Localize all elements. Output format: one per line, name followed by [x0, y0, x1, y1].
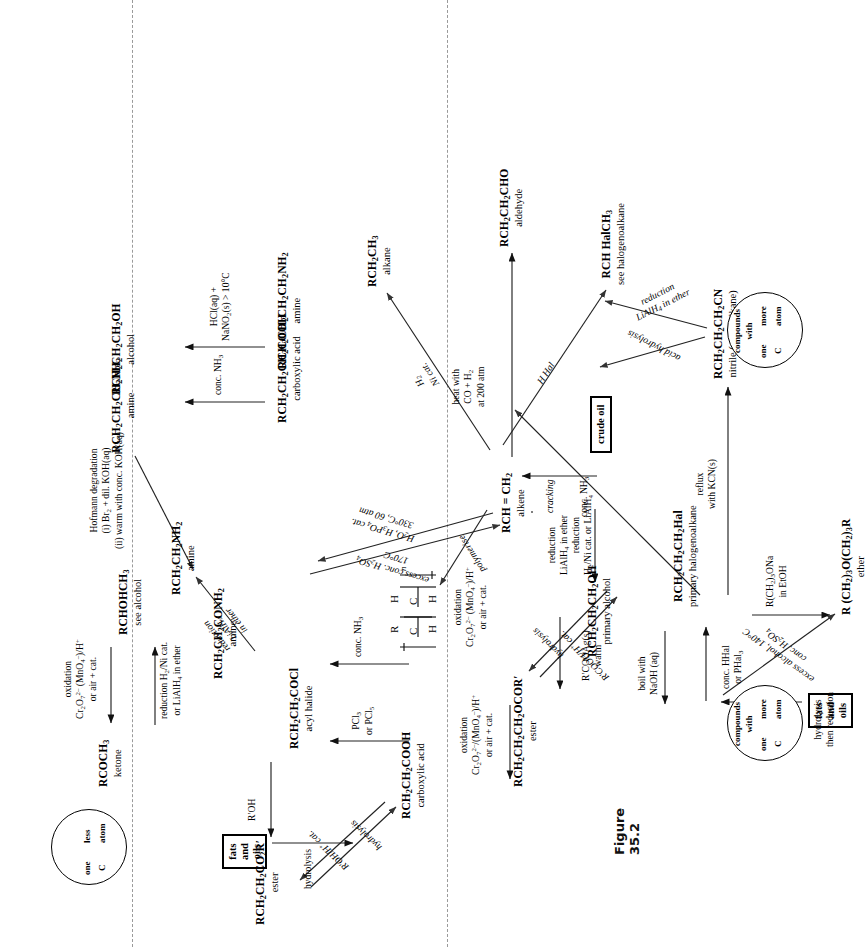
polymer-C2: C — [407, 598, 420, 605]
cond-boil-naoh: boil withNaOH (aq) — [636, 652, 659, 695]
cond-hydrolysis-then-reduction: hydrolysisthen reduction — [812, 692, 835, 747]
cond-hydrolysis-fats: hydrolysis — [302, 849, 314, 889]
node-alkene-label: alkene — [515, 473, 527, 533]
node-amine-plus-one-label: amine — [291, 252, 303, 369]
cond-excess-alcohol: excess alcohol, 140°Cconc. H2SO4 — [741, 616, 824, 686]
polymer-H-br: H — [426, 595, 439, 603]
circle-less-atom: atom — [97, 824, 107, 844]
cond-r-oh: R′OH — [246, 799, 258, 821]
polymer-R: R — [388, 626, 401, 633]
polymer-H-bl: H — [426, 625, 439, 633]
node-ketone: RCOCH3 ketone — [97, 739, 124, 787]
node-sec-halogenoalkane: RCH HalCH3 see halogenoalkane — [600, 203, 627, 285]
cond-r-cooag: R′COOAg(s)warm — [580, 630, 603, 681]
cond-pcl3-pcl5: PCl3or PCl5 — [350, 707, 376, 735]
node-acyl-halide-formula: RCH2CH2COCl — [288, 668, 303, 749]
node-aldehyde: RCH2CH2CHO aldehyde — [498, 169, 525, 247]
node-ether: R (CH2)3O(CH2)3R ether — [840, 519, 867, 615]
node-ether-formula: R (CH2)3O(CH2)3R — [840, 519, 855, 615]
node-alkene-formula: RCH = CH2 — [500, 473, 515, 533]
figure-caption: Figure 35.2 — [612, 808, 642, 855]
circle-mid-line1: compounds — [732, 294, 742, 368]
cond-reflux-kcn: refluxwith KCN(s) — [694, 459, 717, 509]
circle-left-line2: with — [744, 687, 754, 761]
node-secondary-alcohol-formula: RCHOHCH3 — [117, 569, 132, 635]
cond-conc-nh3-amide: conc. NH3 — [352, 617, 365, 657]
cond-oxidation-aldehyde: oxidationCr2O72–/(MnO4–)/H+or air + cat. — [458, 695, 494, 775]
node-amine-plus-one-formula: RCH2CH2CH2CH2NH2 — [276, 252, 291, 369]
cond-hofmann: Hofmann degradation(i) Br2 + dil. KOH(aq… — [88, 432, 124, 549]
node-alcohol-long: RCH2CH2CH2OH alcohol — [110, 303, 137, 395]
cond-conc-hhal: conc. HHalor PHal3 — [720, 645, 745, 689]
cond-cracking: cracking — [544, 479, 556, 513]
node-alcohol-long-formula: RCH2CH2CH2OH — [110, 303, 125, 395]
node-alkane-formula: RCH2CH3 — [366, 235, 381, 287]
node-amine-short: RCH2CH2NH2 amine — [170, 522, 197, 595]
node-carboxylic-acid-label: carboxylic acid — [415, 732, 427, 819]
node-ester-mid-formula: RCH2CH2CH2OCOR′ — [512, 675, 527, 787]
circle-less-c: C — [97, 865, 107, 872]
cond-conc-nh3-amine-long: conc. NH3 — [212, 355, 225, 395]
circle-left-atom: atom — [773, 700, 783, 720]
circle-less-one: one — [82, 862, 92, 876]
node-carboxylic-acid: RCH2CH2COOH carboxylic acid — [400, 732, 427, 819]
cond-conc-nh3-ester-mid: conc. NH3 — [578, 477, 591, 517]
node-amine-plus-one: RCH2CH2CH2CH2NH2 amine — [276, 252, 303, 369]
box-crude-oil: crude oil — [590, 396, 612, 453]
circle-mid-line2: with — [744, 294, 754, 368]
cond-hcl-nano2: HCl(aq) +NaNO2(s) > 10°C — [208, 272, 233, 341]
node-secondary-alcohol-label: see alcohol — [132, 569, 144, 635]
polymer-C1: C — [407, 628, 420, 635]
node-alkene: RCH = CH2 alkene — [500, 473, 527, 533]
node-primary-halogenoalkane: RCH2CH2CH2Hal primary halogenoalkane — [672, 505, 699, 607]
circle-left-one: one — [758, 738, 768, 752]
node-alkane: RCH2CH3 alkane — [366, 235, 393, 287]
node-secondary-alcohol: RCHOHCH3 see alcohol — [117, 569, 144, 635]
node-ester-top: RCH2CH2CO2R′ ester — [254, 840, 281, 925]
circle-less-less: less — [82, 830, 92, 844]
node-ester-mid: RCH2CH2CH2OCOR′ ester — [512, 675, 539, 787]
node-primary-halogenoalkane-label: primary halogenoalkane — [687, 505, 699, 607]
node-amine-short-label: amine — [185, 522, 197, 595]
node-alkane-label: alkane — [381, 235, 393, 287]
polymer-H-tr: H — [388, 595, 401, 603]
node-sec-halogenoalkane-formula: RCH HalCH3 — [600, 203, 615, 285]
node-ester-top-label: ester — [269, 840, 281, 925]
node-sec-halogenoalkane-label: see halogenoalkane — [615, 203, 627, 285]
node-aldehyde-label: aldehyde — [513, 169, 525, 247]
node-ester-top-formula: RCH2CH2CO2R′ — [254, 840, 269, 925]
circle-mid-atom: atom — [773, 307, 783, 327]
cond-oxidation-ketone: oxidationCr2O72– (MnO4–)/H+or air + cat. — [62, 639, 98, 719]
node-carboxylic-acid-formula: RCH2CH2COOH — [400, 732, 415, 819]
circle-mid-one: one — [758, 345, 768, 359]
node-primary-halogenoalkane-formula: RCH2CH2CH2Hal — [672, 505, 687, 607]
circle-mid-more: more — [758, 306, 768, 326]
cond-rona-etoh: R(CH2)3ONain EtOH — [764, 556, 789, 607]
cond-oxidation-pa: oxidationCr2O72– (MnO4–)/H+or air + cat. — [452, 567, 488, 647]
node-ketone-formula: RCOCH3 — [97, 739, 112, 787]
circle-left-c: C — [773, 741, 783, 748]
node-amine-short-formula: RCH2CH2NH2 — [170, 522, 185, 595]
circle-mid-c: C — [773, 348, 783, 355]
node-acyl-halide-label: acyl halide — [303, 668, 315, 749]
node-nitrile-formula: RCH2CH2CH2CN — [712, 289, 727, 379]
circle-left-more: more — [758, 699, 768, 719]
node-ketone-label: ketone — [112, 739, 124, 787]
circle-left-line1: compounds — [732, 687, 742, 761]
node-ester-mid-label: ester — [527, 675, 539, 787]
cond-reduction-aldehyde: reductionLiAlH4 in ether — [546, 515, 571, 575]
cond-reduction-ketone: reduction H2/Ni cat.or LiAlH4 in ether — [158, 642, 184, 719]
node-ether-label: ether — [855, 519, 867, 615]
node-acyl-halide: RCH2CH2COCl acyl halide — [288, 668, 315, 749]
node-aldehyde-formula: RCH2CH2CHO — [498, 169, 513, 247]
node-alcohol-long-label: alcohol — [125, 303, 137, 395]
cond-hydroformylation: heat withCO + H2at 200 atm — [450, 367, 486, 408]
